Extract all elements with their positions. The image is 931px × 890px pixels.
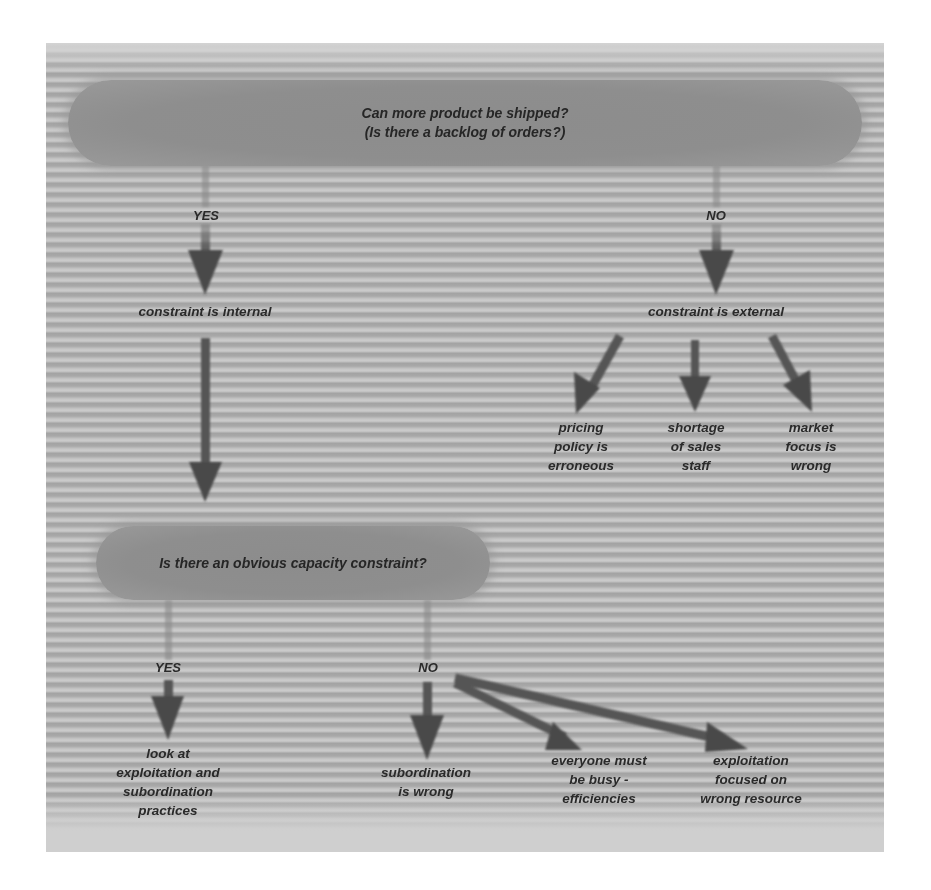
branch-label-yes: YES <box>178 206 234 225</box>
capacity-question-text: Is there an obvious capacity constraint? <box>159 554 427 573</box>
outcome-exploitation-wrong-resource: exploitation focused on wrong resource <box>678 751 824 808</box>
exploitation-arrow-icon <box>455 678 748 752</box>
pricing-arrow-icon <box>574 336 620 414</box>
subordination-arrow-icon <box>410 682 444 760</box>
decision-node-can-ship: Can more product be shipped? (Is there a… <box>68 80 862 166</box>
outcome-subordination-wrong: subordination is wrong <box>364 763 488 801</box>
outcome-constraint-external: constraint is external <box>596 302 836 321</box>
no-arrow-icon <box>699 224 734 295</box>
capacity-yes-arrow-icon <box>151 680 184 740</box>
outcome-everyone-busy: everyone must be busy - efficiencies <box>537 751 661 808</box>
capacity-no-stem <box>424 600 431 660</box>
cause-pricing-policy: pricing policy is erroneous <box>536 418 626 475</box>
capacity-branch-label-no: NO <box>406 658 450 677</box>
outcome-look-at-exploitation: look at exploitation and subordination p… <box>90 744 246 820</box>
decision-node-capacity-constraint: Is there an obvious capacity constraint? <box>96 526 490 600</box>
yes-arrow-icon <box>188 224 223 295</box>
cause-sales-staff-shortage: shortage of sales staff <box>648 418 744 475</box>
no-stem-top <box>713 165 720 207</box>
branch-label-no: NO <box>690 206 742 225</box>
shortage-arrow-icon <box>679 340 711 412</box>
cause-market-focus: market focus is wrong <box>768 418 854 475</box>
market-arrow-icon <box>772 336 812 412</box>
internal-to-capacity-arrow-icon <box>189 338 222 502</box>
capacity-branch-label-yes: YES <box>143 658 193 677</box>
outcome-constraint-internal: constraint is internal <box>105 302 305 321</box>
capacity-yes-stem <box>165 600 172 660</box>
decision-question-text: Can more product be shipped? (Is there a… <box>362 104 569 142</box>
yes-stem-top <box>202 165 209 207</box>
